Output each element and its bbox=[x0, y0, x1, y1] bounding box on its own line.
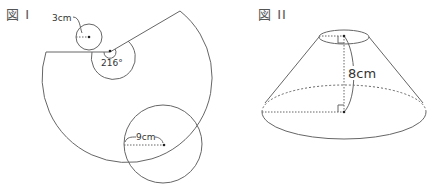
outer-sector-outline bbox=[42, 11, 212, 163]
top-center-dot bbox=[343, 35, 346, 38]
large-circle-center-dot bbox=[163, 144, 166, 147]
bottom-ellipse-front bbox=[262, 112, 426, 139]
right-slant-edge bbox=[369, 37, 423, 103]
large-radius-label: 9cm bbox=[136, 132, 155, 142]
bottom-right-angle-marker bbox=[338, 105, 344, 112]
top-right-angle-marker bbox=[338, 36, 344, 43]
large-circle-label-leader-right bbox=[155, 137, 163, 143]
figure-1-net bbox=[42, 11, 212, 183]
diagram-canvas: 3cm 216° 9cm 8cm bbox=[0, 0, 429, 186]
large-circle bbox=[124, 105, 202, 183]
height-label: 8cm bbox=[348, 66, 376, 81]
left-slant-edge bbox=[265, 37, 319, 103]
bottom-ellipse-back bbox=[262, 85, 426, 112]
large-circle-label-leader bbox=[125, 137, 136, 142]
bottom-center-dot bbox=[343, 111, 346, 114]
sector-center-dot bbox=[109, 50, 112, 53]
angle-label: 216° bbox=[101, 58, 123, 68]
figure-2-frustum bbox=[262, 30, 426, 139]
small-circle-center-dot bbox=[88, 36, 91, 39]
small-radius-label: 3cm bbox=[52, 13, 71, 23]
